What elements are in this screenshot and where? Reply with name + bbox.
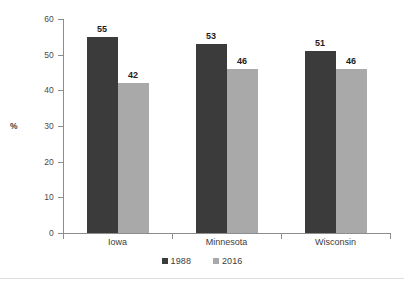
y-tick-label: 30: [24, 121, 54, 131]
y-tick-mark: [58, 55, 63, 56]
legend-swatch-icon: [162, 258, 168, 264]
y-tick-label: 60: [24, 14, 54, 24]
y-tick-label: 50: [24, 50, 54, 60]
legend-swatch-icon: [213, 258, 219, 264]
legend-label: 2016: [222, 256, 242, 266]
y-tick-mark: [58, 90, 63, 91]
legend-label: 1988: [171, 256, 191, 266]
y-tick-label: 20: [24, 157, 54, 167]
page-edge-line: [0, 278, 404, 279]
y-tick-label: 10: [24, 192, 54, 202]
x-tick-mark: [63, 233, 64, 239]
y-tick-label: 40: [24, 85, 54, 95]
y-tick-mark: [58, 162, 63, 163]
x-tick-mark: [172, 233, 173, 239]
x-axis-label-minnesota: Minnesota: [206, 237, 248, 247]
bar-value-label: 42: [128, 70, 138, 80]
bar-wisconsin-2016: [336, 69, 367, 233]
bar-value-label: 53: [206, 31, 216, 41]
y-tick-mark: [58, 126, 63, 127]
y-axis-line: [63, 19, 64, 234]
bar-value-label: 46: [346, 56, 356, 66]
y-tick-mark: [58, 19, 63, 20]
bar-iowa-1988: [87, 37, 118, 233]
bar-value-label: 55: [97, 24, 107, 34]
bar-wisconsin-1988: [305, 51, 336, 233]
chart-legend: 19882016: [0, 256, 404, 266]
y-tick-mark: [58, 197, 63, 198]
x-axis-line: [63, 233, 390, 234]
x-axis-label-iowa: Iowa: [108, 237, 127, 247]
bar-minnesota-2016: [227, 69, 258, 233]
bar-iowa-2016: [118, 83, 149, 233]
bar-value-label: 46: [237, 56, 247, 66]
bar-value-label: 51: [315, 38, 325, 48]
legend-item-1988[interactable]: 1988: [162, 256, 191, 266]
bar-chart: % 6050403020100 554253465146 IowaMinneso…: [0, 0, 404, 281]
y-axis-title: %: [10, 121, 18, 131]
x-tick-mark: [281, 233, 282, 239]
x-tick-mark: [390, 233, 391, 239]
legend-item-2016[interactable]: 2016: [213, 256, 242, 266]
bar-minnesota-1988: [196, 44, 227, 233]
x-axis-label-wisconsin: Wisconsin: [315, 237, 356, 247]
y-tick-label: 0: [24, 228, 54, 238]
